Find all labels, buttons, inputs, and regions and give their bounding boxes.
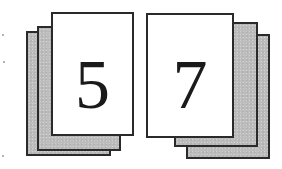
page-number-label: 5: [53, 50, 132, 120]
scan-speck: [2, 155, 4, 157]
right-stack-front-page: 7: [146, 13, 234, 138]
page-number-label: 7: [148, 50, 232, 120]
left-stack-front-page: 5: [51, 12, 134, 136]
scan-speck: [3, 61, 5, 63]
scan-speck: [2, 34, 4, 36]
